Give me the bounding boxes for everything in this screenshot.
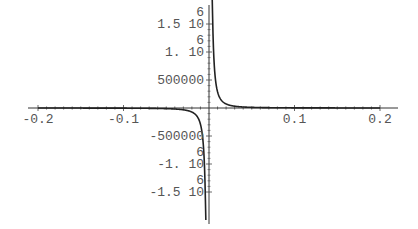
tick-labels: -0.2-0.10.10.21.5 1061. 106500000-500000… xyxy=(22,5,391,200)
y-tick-exponent: 6 xyxy=(196,33,204,48)
y-tick-exponent: 6 xyxy=(196,5,204,20)
plot-area: -0.2-0.10.10.21.5 1061. 106500000-500000… xyxy=(0,0,418,229)
y-tick-exponent: 6 xyxy=(196,173,204,188)
x-tick-label: -0.1 xyxy=(108,112,139,127)
curve-positive-branch xyxy=(212,0,380,108)
x-tick-label: 0.2 xyxy=(368,112,391,127)
x-tick-label: 0.1 xyxy=(283,112,307,127)
y-tick-label: -500000 xyxy=(149,129,204,144)
y-tick-label: 500000 xyxy=(157,73,204,88)
x-tick-label: -0.2 xyxy=(22,112,53,127)
y-tick-exponent: 6 xyxy=(196,145,204,160)
